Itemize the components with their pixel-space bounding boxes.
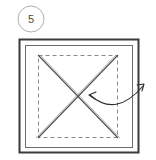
step-number-label: 5 — [28, 13, 34, 25]
step-badge: 5 — [18, 6, 44, 32]
origami-step-figure: 5 — [0, 0, 156, 160]
diagram-canvas: 5 — [0, 0, 156, 160]
